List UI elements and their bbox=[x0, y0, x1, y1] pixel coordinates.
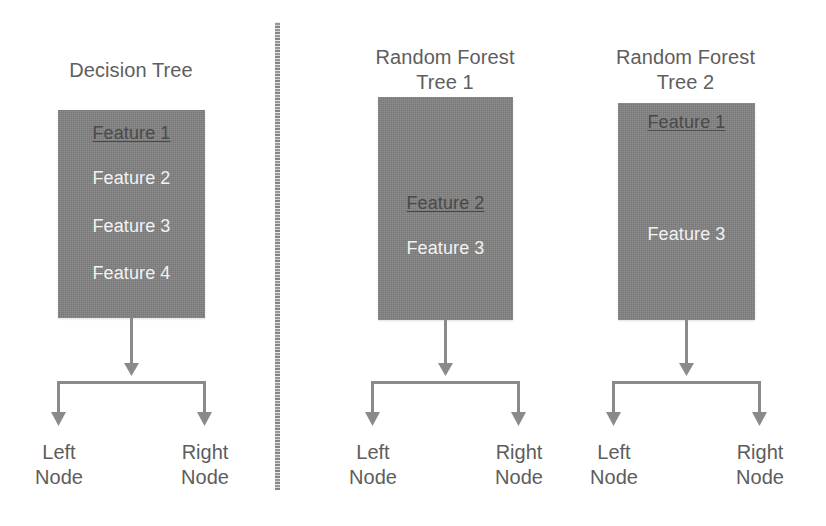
leaf-label-left: Left Node bbox=[14, 440, 104, 490]
leaf-label-left: Left Node bbox=[328, 440, 418, 490]
leaf-label-right: Right Node bbox=[160, 440, 250, 490]
leaf-label-right: Right Node bbox=[715, 440, 805, 490]
leaf-label-left: Left Node bbox=[569, 440, 659, 490]
vertical-separator bbox=[275, 22, 280, 490]
diagram-canvas: Decision Tree Feature 1 Feature 2 Featur… bbox=[0, 0, 826, 526]
panel-rf-tree-2: Random Forest Tree 2 Feature 1 Feature 3… bbox=[545, 0, 826, 526]
panel-decision-tree: Decision Tree Feature 1 Feature 2 Featur… bbox=[0, 0, 262, 526]
